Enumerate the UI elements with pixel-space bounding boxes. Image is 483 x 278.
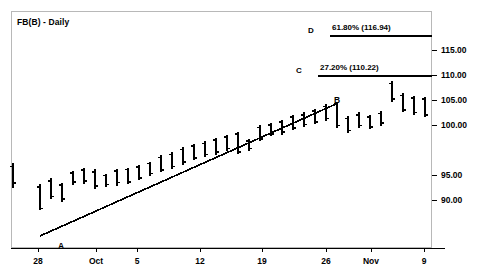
ohlc-bar: [422, 97, 428, 117]
ohlc-bar: [59, 183, 65, 203]
ohlc-bar: [103, 174, 109, 187]
ohlc-bar: [345, 116, 351, 133]
ohlc-bar: [356, 112, 362, 128]
ohlc-bar: [312, 109, 318, 125]
chart-canvas: [0, 0, 483, 278]
ohlc-bar: [158, 155, 164, 172]
y-axis-tick-label: 95.00: [441, 170, 462, 180]
x-axis-tick-label: 26: [321, 256, 330, 266]
ohlc-bar: [10, 163, 16, 188]
ohlc-bar: [246, 139, 252, 151]
pivot-label-b: B: [334, 95, 340, 105]
ohlc-bar: [224, 135, 230, 151]
ohlc-bar: [70, 171, 76, 185]
ohlc-bar: [191, 144, 197, 161]
ohlc-bar: [323, 104, 329, 121]
level-label-c: 27.20% (110.22): [320, 63, 379, 72]
ohlc-bar: [136, 165, 142, 181]
ohlc-bar: [389, 81, 395, 101]
ohlc-bar: [114, 169, 120, 186]
ohlc-bar: [169, 152, 175, 169]
pivot-label-a: A: [58, 241, 64, 251]
ohlc-bar: [367, 115, 373, 129]
ohlc-bar: [48, 178, 54, 199]
ohlc-bar: [213, 138, 219, 155]
ohlc-bar: [378, 111, 384, 125]
y-axis-tick-label: 100.00: [441, 120, 467, 130]
level-key-d: D: [308, 26, 314, 35]
y-axis-tick-label: 90.00: [441, 195, 462, 205]
x-axis-tick-label: 9: [422, 256, 427, 266]
ohlc-bar: [92, 169, 98, 189]
ohlc-bar: [180, 147, 186, 164]
y-axis-tick-label: 105.00: [441, 95, 467, 105]
ohlc-bar: [37, 184, 43, 210]
chart-screenshot: FB(B) - Daily 115.00110.00105.00100.0095…: [0, 0, 483, 278]
y-axis-tick-label: 115.00: [441, 45, 467, 55]
ohlc-bars-group: [10, 81, 428, 210]
ohlc-bar: [147, 162, 153, 176]
ohlc-bar: [411, 96, 417, 115]
x-axis-tick-label: Nov: [363, 256, 379, 266]
ohlc-bar: [334, 102, 340, 128]
x-axis-tick-label: 12: [195, 256, 204, 266]
ohlc-bar: [81, 168, 87, 184]
axis-ticks-group: [11, 50, 445, 252]
level-label-d: 61.80% (116.94): [332, 23, 391, 32]
ohlc-bar: [125, 168, 131, 185]
x-axis-tick-label: 5: [135, 256, 140, 266]
level-key-c: C: [296, 66, 302, 75]
x-axis-tick-label: Oct: [89, 256, 103, 266]
ohlc-bar: [235, 132, 241, 155]
y-axis-tick-label: 110.00: [441, 70, 467, 80]
ohlc-bar: [202, 141, 208, 157]
x-axis-tick-label: 28: [33, 256, 42, 266]
ohlc-bar: [400, 93, 406, 112]
x-axis-tick-label: 19: [257, 256, 266, 266]
